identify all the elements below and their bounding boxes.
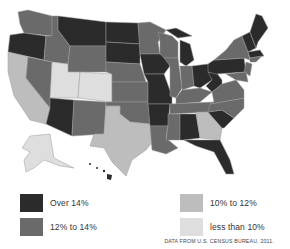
state-missouri xyxy=(144,74,172,104)
state-alaska xyxy=(22,134,74,172)
state-arkansas xyxy=(148,104,170,126)
state-wyoming xyxy=(68,46,106,72)
state-indiana xyxy=(180,66,194,90)
legend-item-12-to-14: 12% to 14% xyxy=(20,218,97,236)
state-maryland-delaware xyxy=(226,72,248,82)
state-kansas xyxy=(112,82,148,102)
legend-label: less than 10% xyxy=(210,222,265,232)
state-new-mexico xyxy=(72,100,106,136)
state-hawaii xyxy=(89,163,112,180)
legend-item-over-14: Over 14% xyxy=(20,194,89,212)
legend-label: 10% to 12% xyxy=(210,198,257,208)
state-kentucky xyxy=(176,88,212,104)
legend-item-less-than-10: less than 10% xyxy=(180,218,265,236)
state-washington xyxy=(18,10,52,36)
state-nebraska xyxy=(106,62,146,82)
data-source-note: DATA FROM U.S. CENSUS BUREAU, 2011. xyxy=(164,238,274,244)
legend-label: Over 14% xyxy=(50,198,89,208)
state-pennsylvania xyxy=(208,58,246,74)
state-colorado xyxy=(78,72,112,102)
legend-swatch xyxy=(20,218,43,236)
state-south-dakota xyxy=(106,42,140,64)
state-arizona xyxy=(46,98,74,136)
us-choropleth-map xyxy=(0,0,290,190)
state-michigan xyxy=(180,40,194,66)
legend-label: 12% to 14% xyxy=(50,222,97,232)
legend-swatch xyxy=(20,194,43,212)
legend-swatch xyxy=(180,194,203,212)
state-mississippi xyxy=(166,114,180,140)
state-florida xyxy=(184,140,234,174)
legend-item-10-to-12: 10% to 12% xyxy=(180,194,257,212)
legend-swatch xyxy=(180,218,203,236)
state-north-dakota xyxy=(106,22,140,44)
